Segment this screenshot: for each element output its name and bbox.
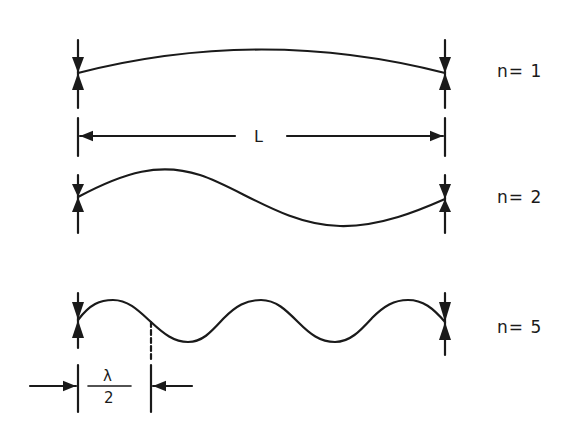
- pin-arrow-down-icon: [72, 302, 84, 320]
- mode-5-label: n= 5: [497, 317, 542, 337]
- pin-arrow-up-icon: [72, 73, 84, 90]
- mode-2-group: [72, 169, 451, 233]
- diagram-canvas: n= 1 L n= 2 n= 5 λ 2: [0, 0, 587, 436]
- mode-2-waveform: [78, 169, 445, 226]
- pin-arrow-up-icon: [439, 73, 451, 90]
- pin-arrow-down-icon: [72, 57, 84, 73]
- mode-1-label: n= 1: [497, 61, 542, 81]
- mode-1-waveform: [78, 50, 445, 74]
- diagram-svg: n= 1 L n= 2 n= 5 λ 2: [0, 0, 587, 436]
- pin-arrow-down-icon: [439, 184, 451, 199]
- mode-2-label: n= 2: [497, 187, 542, 207]
- pin-arrow-up-icon: [72, 197, 84, 212]
- pin-arrow-down-icon: [439, 57, 451, 73]
- lambda-numerator: λ: [103, 367, 112, 385]
- pin-arrow-down-icon: [439, 302, 451, 322]
- mode-5-group: [72, 293, 451, 360]
- mode-1-group: [72, 40, 451, 108]
- span-length-label: L: [254, 127, 263, 146]
- pin-arrow-up-icon: [439, 322, 451, 340]
- pin-arrow-up-icon: [72, 320, 84, 338]
- half-denominator: 2: [104, 389, 114, 407]
- mode-5-waveform: [78, 300, 445, 342]
